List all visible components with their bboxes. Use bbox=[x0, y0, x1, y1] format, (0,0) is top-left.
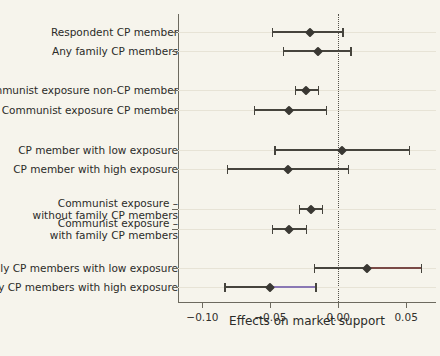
zero-reference-line bbox=[338, 14, 339, 304]
confidence-interval-tint bbox=[367, 267, 421, 268]
estimate-point-marker bbox=[301, 85, 311, 95]
confidence-interval-cap bbox=[322, 205, 323, 214]
confidence-interval-cap bbox=[314, 264, 315, 273]
plot-area: −0.10−0.050.000.05 bbox=[178, 14, 436, 302]
confidence-interval-cap bbox=[272, 28, 273, 37]
confidence-interval-cap bbox=[254, 106, 255, 115]
estimate-point-marker bbox=[284, 105, 294, 115]
row-label: Any family CP members bbox=[0, 46, 178, 58]
row-label: CP member with low exposure bbox=[0, 145, 178, 157]
estimate-point-marker bbox=[265, 282, 275, 292]
row-label: Communist exposure non-CP member bbox=[0, 85, 178, 97]
confidence-interval-cap bbox=[306, 225, 307, 234]
estimate-point-marker bbox=[313, 46, 323, 56]
confidence-interval-cap bbox=[318, 86, 319, 95]
confidence-interval-cap bbox=[274, 146, 275, 155]
estimate-point-marker bbox=[283, 164, 293, 174]
confidence-interval-cap bbox=[295, 86, 296, 95]
confidence-interval-tint bbox=[270, 286, 315, 287]
row-label: Family CP members with low exposure bbox=[0, 263, 178, 275]
confidence-interval-cap bbox=[350, 47, 351, 56]
y-axis-line bbox=[178, 14, 179, 302]
confidence-interval-cap bbox=[272, 225, 273, 234]
x-axis-title: Effects on market support bbox=[178, 314, 436, 328]
estimate-row bbox=[178, 90, 436, 91]
row-label: Communist exposure CP member bbox=[0, 105, 178, 117]
estimate-row bbox=[178, 32, 436, 33]
x-axis-line bbox=[178, 302, 436, 303]
estimate-row bbox=[178, 169, 436, 170]
estimate-point-marker bbox=[305, 27, 315, 37]
x-axis-tick bbox=[270, 302, 271, 308]
estimate-point-marker bbox=[362, 263, 372, 273]
confidence-interval-cap bbox=[227, 165, 228, 174]
confidence-interval-cap bbox=[315, 283, 316, 292]
confidence-interval-cap bbox=[326, 106, 327, 115]
estimate-row bbox=[178, 287, 436, 288]
row-label: CP member with high exposure bbox=[0, 164, 178, 176]
row-label: Family CP members with high exposure bbox=[0, 282, 178, 294]
confidence-interval-cap bbox=[348, 165, 349, 174]
estimate-row bbox=[178, 268, 436, 269]
estimate-point-marker bbox=[306, 204, 316, 214]
row-label: Respondent CP member bbox=[0, 27, 178, 39]
confidence-interval-cap bbox=[283, 47, 284, 56]
confidence-interval-cap bbox=[299, 205, 300, 214]
estimate-row bbox=[178, 150, 436, 151]
estimate-row bbox=[178, 110, 436, 111]
x-axis-tick bbox=[406, 302, 407, 308]
x-axis-tick bbox=[338, 302, 339, 308]
estimate-row bbox=[178, 51, 436, 52]
estimate-point-marker bbox=[284, 224, 294, 234]
estimate-row bbox=[178, 209, 436, 210]
confidence-interval-cap bbox=[342, 28, 343, 37]
coefficient-plot-figure: Respondent CP memberAny family CP member… bbox=[0, 0, 440, 356]
estimate-row bbox=[178, 229, 436, 230]
confidence-interval-cap bbox=[421, 264, 422, 273]
confidence-interval-cap bbox=[224, 283, 225, 292]
confidence-interval-cap bbox=[409, 146, 410, 155]
x-axis-tick bbox=[202, 302, 203, 308]
row-label: Communist exposure – with family CP memb… bbox=[0, 218, 178, 241]
